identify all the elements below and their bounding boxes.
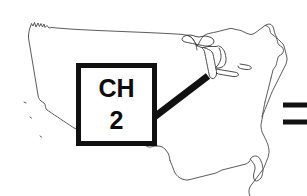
inland-tick-1 [24,102,26,103]
lake-superior-path [182,35,214,46]
lake-erie-path [216,69,239,77]
inland-tick-3 [30,117,32,118]
channel-callout-box: CH 2 [76,63,157,146]
callout-label-ch: CH [98,76,134,101]
texas-gulf-path [170,159,251,180]
inland-tick-2 [40,136,42,137]
callout-label-number: 2 [110,108,124,133]
callout-leader-line [153,76,208,118]
mid-atlantic-coast-detail [265,78,271,102]
map-figure: CH 2 [0,0,307,196]
lake-huron-path [216,46,227,68]
northeast-coast-path [265,26,284,79]
lake-ontario-path [238,64,252,70]
lake-michigan-path [202,48,217,79]
